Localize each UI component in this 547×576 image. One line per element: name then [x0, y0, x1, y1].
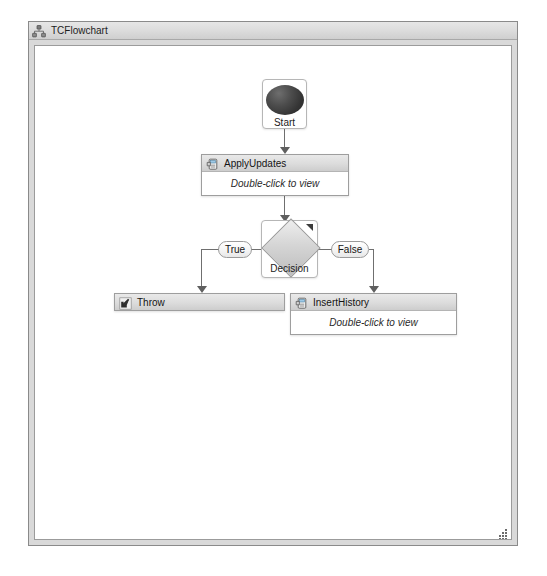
activity-icon	[206, 157, 219, 170]
edge-label-false-text: False	[338, 244, 362, 255]
node-apply-updates-header[interactable]: ApplyUpdates	[202, 155, 348, 172]
node-insert-history-hint: Double-click to view	[329, 317, 417, 328]
node-apply-updates[interactable]: ApplyUpdates Double-click to view	[201, 154, 349, 196]
node-throw-label: Throw	[137, 297, 165, 308]
activity-icon	[295, 296, 308, 309]
edge-label-false[interactable]: False	[331, 241, 369, 258]
screenshot-root: TCFlowchart True Fals	[0, 0, 547, 576]
flowchart-canvas[interactable]: True False Start	[34, 45, 512, 540]
edge-label-true-text: True	[225, 244, 245, 255]
designer-title: TCFlowchart	[51, 25, 108, 36]
connector-false-vertical	[373, 249, 374, 291]
hierarchy-icon	[32, 24, 46, 37]
filled-circle-icon	[266, 85, 304, 115]
node-decision-label: Decision	[262, 263, 317, 274]
designer-titlebar: TCFlowchart	[29, 22, 517, 40]
node-insert-history-header[interactable]: InsertHistory	[291, 294, 456, 311]
node-insert-history-label: InsertHistory	[313, 297, 369, 308]
node-insert-history-body[interactable]: Double-click to view	[291, 311, 456, 333]
connector-true-arrow	[197, 286, 207, 293]
node-throw[interactable]: Throw	[114, 293, 285, 311]
connector-false-arrow	[369, 286, 379, 293]
node-apply-updates-hint: Double-click to view	[231, 178, 319, 189]
edge-label-true[interactable]: True	[218, 241, 252, 258]
connector-start-to-apply-arrow	[280, 147, 290, 154]
throw-arrow-icon	[119, 296, 132, 309]
connector-true-vertical	[201, 249, 202, 291]
flowchart-designer-frame: TCFlowchart True Fals	[28, 21, 518, 546]
node-start-label: Start	[274, 117, 295, 128]
node-start[interactable]: Start	[262, 79, 307, 129]
expand-corner-icon[interactable]	[306, 224, 313, 231]
node-decision[interactable]: Decision	[261, 220, 318, 278]
node-apply-updates-label: ApplyUpdates	[224, 158, 286, 169]
resize-grip-icon[interactable]	[497, 526, 508, 537]
node-apply-updates-body[interactable]: Double-click to view	[202, 172, 348, 194]
node-insert-history[interactable]: InsertHistory Double-click to view	[290, 293, 457, 335]
